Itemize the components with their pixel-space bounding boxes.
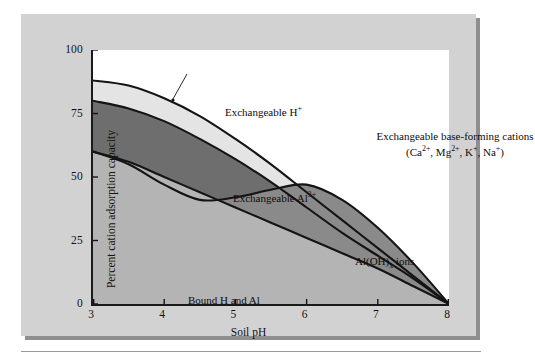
x-tick-label: 7	[364, 308, 388, 320]
x-tick-label: 6	[293, 308, 317, 320]
x-axis-title: Soil pH	[21, 326, 476, 338]
x-tick-label: 8	[435, 308, 459, 320]
figure-panel: Exchangeable H+ Exchangeable base-formin…	[21, 14, 476, 336]
x-axis-tick-labels: 345678	[21, 14, 476, 336]
x-tick-label: 5	[221, 308, 245, 320]
x-tick-label: 4	[150, 308, 174, 320]
bottom-divider-rule	[21, 351, 481, 352]
x-tick-label: 3	[79, 308, 103, 320]
